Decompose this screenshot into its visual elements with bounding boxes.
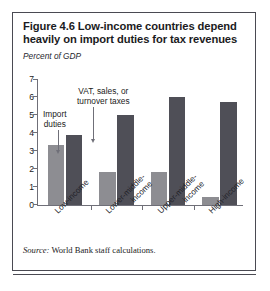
annotation-vat-line2: turnover taxes (77, 96, 130, 106)
source-label: Source: (23, 245, 49, 255)
arrow-shaft (93, 107, 94, 140)
figure-frame: Figure 4.6 Low-income countries depend h… (12, 12, 256, 271)
figure-title: Figure 4.6 Low-income countries depend h… (23, 20, 247, 47)
arrow-head (91, 139, 95, 143)
annotation-vat-taxes: VAT, sales, or turnover taxes (77, 87, 130, 107)
source-text: World Bank staff calculations. (49, 245, 155, 255)
arrow-head (56, 150, 60, 154)
bar-import-duties (48, 145, 65, 204)
annotation-import-duties-line1: Import (43, 109, 67, 119)
source-note: Source: World Bank staff calculations. (23, 245, 156, 255)
annotation-vat-line1: VAT, sales, or (78, 86, 128, 96)
y-axis-unit-label: Percent of GDP (23, 51, 81, 61)
annotation-import-duties: Import duties (43, 110, 67, 130)
arrow-shaft (58, 130, 59, 151)
figure-frame-underline (13, 274, 256, 275)
annotation-import-duties-line2: duties (44, 119, 66, 129)
